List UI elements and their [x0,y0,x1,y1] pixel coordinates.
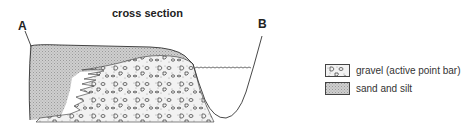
label-a: A [18,19,27,33]
legend-label-gravel: gravel (active point bar) [356,65,461,76]
sand-swatch-icon [325,82,350,95]
legend-item-sand: sand and silt [325,82,412,95]
gravel-swatch-icon [325,64,350,77]
water-surface [195,67,251,68]
legend-label-sand: sand and silt [356,83,412,94]
legend-item-gravel: gravel (active point bar) [325,64,461,77]
label-b: B [258,17,267,31]
diagram-title: cross section [112,7,183,19]
